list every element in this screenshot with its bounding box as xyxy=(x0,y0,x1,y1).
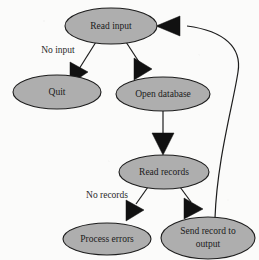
arrowhead-read-records-to-process-errors xyxy=(126,200,144,221)
node-quit[interactable]: Quit xyxy=(13,75,101,109)
edge-open-database-to-read-records xyxy=(152,111,174,155)
node-label-send-record-to-output-line1: Send record to xyxy=(180,226,236,236)
node-label-read-input: Read input xyxy=(90,21,132,31)
arrowhead-open-database-to-read-records xyxy=(152,133,174,155)
node-shape-send-record-to-output xyxy=(161,217,255,259)
node-label-read-records: Read records xyxy=(139,167,189,177)
edge-read-input-to-open-database xyxy=(126,42,152,80)
edge-label-no-records: No records xyxy=(86,190,128,200)
edge-label-no-input: No input xyxy=(41,45,75,55)
edge-line-send-record-to-read-input xyxy=(187,26,239,218)
node-label-quit: Quit xyxy=(49,87,66,97)
node-process-errors[interactable]: Process errors xyxy=(63,223,151,255)
edge-read-records-to-send-record xyxy=(180,187,203,219)
edge-read-records-to-process-errors xyxy=(126,187,148,221)
flowchart-diagram: Read input Quit Open database Read recor… xyxy=(0,0,259,260)
node-send-record-to-output[interactable]: Send record to output xyxy=(161,217,255,259)
arrowhead-read-input-to-open-database xyxy=(134,58,152,80)
flowchart-canvas: Read input Quit Open database Read recor… xyxy=(0,0,259,260)
node-read-records[interactable]: Read records xyxy=(119,155,209,189)
node-read-input[interactable]: Read input xyxy=(65,8,157,44)
node-label-open-database: Open database xyxy=(135,89,191,99)
edge-line-read-input-to-quit xyxy=(79,42,96,69)
node-label-send-record-to-output-line2: output xyxy=(196,239,221,249)
arrowhead-read-records-to-send-record xyxy=(184,198,203,219)
arrowhead-send-record-to-read-input xyxy=(156,16,180,36)
edge-line-read-records-to-process-errors xyxy=(136,187,148,204)
node-label-process-errors: Process errors xyxy=(80,234,134,244)
node-open-database[interactable]: Open database xyxy=(116,77,210,111)
